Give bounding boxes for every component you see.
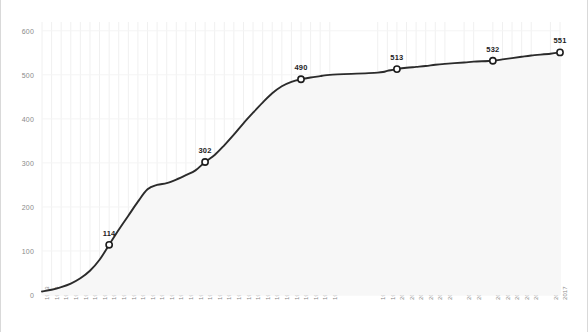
data-point-label: 302 (199, 146, 212, 155)
data-point-label: 114 (103, 229, 116, 238)
data-point-label: 532 (486, 45, 499, 54)
line-chart-plot (0, 0, 588, 332)
data-point-label: 551 (553, 36, 566, 45)
chart-container: 0100200300400500600 19631964196519661967… (0, 0, 588, 332)
data-point-label: 513 (390, 53, 403, 62)
data-point-label: 490 (294, 63, 307, 72)
